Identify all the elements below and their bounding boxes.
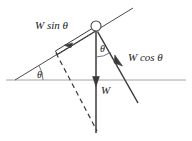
dashed-construction-line xyxy=(56,53,97,131)
diagram-canvas xyxy=(0,0,192,141)
w-sin-theta-shaft xyxy=(55,28,95,55)
weight-label: W xyxy=(101,85,110,96)
w-sin-theta-label: W sin θ xyxy=(35,20,68,31)
free-body-diagram: W sin θ W cos θ W θ θ xyxy=(0,0,192,141)
incline-angle-label: θ xyxy=(37,70,42,80)
vertical-angle-label: θ xyxy=(100,44,105,54)
weight-arrowhead xyxy=(93,77,100,87)
w-cos-theta-label: W cos θ xyxy=(128,52,163,63)
object-circle xyxy=(91,21,101,31)
